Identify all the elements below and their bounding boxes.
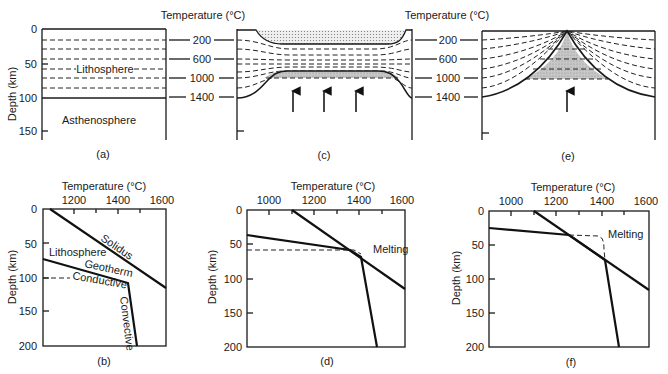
plot-frame <box>247 210 405 347</box>
lithosphere-thinning-figure: Depth (km) 0 50 100 150 Lithosphere Asth… <box>0 0 668 374</box>
x-tick-1200: 1200 <box>62 194 86 206</box>
depth-tick-150: 150 <box>19 125 37 137</box>
melting-label: Melting <box>608 228 643 240</box>
depth-tick: 100 <box>19 272 37 284</box>
x-tick: 1000 <box>257 194 281 206</box>
isotherm-label-1000: 1000 <box>190 72 214 84</box>
temperature-scale-1: Temperature (°C) 200 600 1000 1400 <box>161 9 245 103</box>
isotherm-label-1400: 1400 <box>190 91 214 103</box>
melting-dashed-line <box>247 250 361 254</box>
depth-tick: 0 <box>236 204 242 216</box>
lithosphere-label: Lithosphere <box>76 63 134 75</box>
x-tick-1400: 1400 <box>106 194 130 206</box>
asthenosphere-label: Asthenosphere <box>62 114 136 126</box>
depth-tick: 100 <box>224 273 242 285</box>
isotherm-label-600: 600 <box>193 53 211 65</box>
x-tick: 1400 <box>347 194 371 206</box>
isotherm-label-1000: 1000 <box>436 72 460 84</box>
temperature-scale-2: Temperature (°C) 200 600 1000 1400 <box>405 9 489 103</box>
panel-d: Temperature (°C) 1000 1200 1400 1600 Dep… <box>206 180 414 367</box>
depth-tick-0: 0 <box>31 23 37 35</box>
caption-e: (e) <box>561 150 574 162</box>
depth-axis-label: Depth (km) <box>206 250 218 304</box>
depth-tick: 150 <box>19 305 37 317</box>
depth-tick: 50 <box>25 238 37 250</box>
isotherm-label-200: 200 <box>439 34 457 46</box>
depth-tick: 200 <box>466 341 484 353</box>
x-tick: 1200 <box>302 194 326 206</box>
lithosphere-label: Lithosphere <box>49 246 107 258</box>
depth-tick: 150 <box>224 307 242 319</box>
caption-c: (c) <box>318 149 331 161</box>
depth-tick: 0 <box>31 203 37 215</box>
convective-label: Convective <box>118 296 137 351</box>
panel-f: Temperature (°C) 1000 1200 1400 1600 Dep… <box>450 181 658 368</box>
panel-e: (e) <box>482 31 655 162</box>
depth-tick: 0 <box>478 205 484 217</box>
melting-label: Melting <box>373 243 408 255</box>
panel-b: Temperature (°C) 1200 1400 1600 Depth (k… <box>6 180 174 367</box>
depth-axis-label: Depth (km) <box>450 251 462 305</box>
depth-axis-label: Depth (km) <box>6 67 18 121</box>
temperature-title: Temperature (°C) <box>405 9 489 21</box>
x-tick: 1000 <box>499 195 523 207</box>
depth-axis-label: Depth (km) <box>6 250 18 304</box>
caption-f: (f) <box>566 356 576 368</box>
geotherm-line <box>247 235 377 347</box>
isotherms-c <box>237 40 412 88</box>
caption-a: (a) <box>96 148 109 160</box>
x-tick-1600: 1600 <box>150 194 174 206</box>
temperature-title: Temperature (°C) <box>161 9 245 21</box>
temperature-title: Temperature (°C) <box>531 181 615 193</box>
caption-b: (b) <box>97 355 110 367</box>
temperature-title: Temperature (°C) <box>291 180 375 192</box>
isotherm-label-600: 600 <box>439 53 457 65</box>
x-tick: 1400 <box>590 195 614 207</box>
depth-tick: 50 <box>230 238 242 250</box>
temperature-title: Temperature (°C) <box>62 180 146 192</box>
panel-c: (c) <box>237 29 412 161</box>
depth-tick: 100 <box>466 273 484 285</box>
isotherm-label-200: 200 <box>193 34 211 46</box>
depth-tick: 50 <box>472 239 484 251</box>
depth-tick-100: 100 <box>19 92 37 104</box>
caption-d: (d) <box>320 355 333 367</box>
x-tick: 1600 <box>634 195 658 207</box>
depth-tick: 150 <box>466 307 484 319</box>
depth-tick-50: 50 <box>25 58 37 70</box>
panel-a: Depth (km) 0 50 100 150 Lithosphere Asth… <box>6 23 166 160</box>
x-tick: 1200 <box>544 195 568 207</box>
isotherm-label-1400: 1400 <box>436 91 460 103</box>
depth-tick: 200 <box>224 341 242 353</box>
geotherm-line <box>489 228 619 347</box>
x-tick: 1600 <box>390 194 414 206</box>
depth-tick: 200 <box>19 340 37 352</box>
